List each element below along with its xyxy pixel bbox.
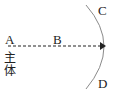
label-c: C <box>98 4 107 17</box>
label-subject-char1: 主 <box>4 52 16 64</box>
label-d: D <box>98 77 107 90</box>
label-subject-char2: 体 <box>4 65 16 77</box>
label-b: B <box>53 33 62 46</box>
arrow-head-icon <box>100 42 106 50</box>
label-a: A <box>5 33 14 46</box>
